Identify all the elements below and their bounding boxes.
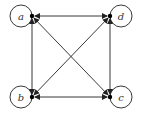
node-a [30,14,34,18]
node-b [30,95,34,99]
graph-diagram: adbc [0,0,141,117]
node-label-b: b [18,92,24,103]
edges-layer [32,16,110,97]
node-label-c: c [118,92,124,103]
node-label-d: d [118,11,124,22]
node-c [108,95,112,99]
node-d [108,14,112,18]
node-label-a: a [18,11,24,22]
